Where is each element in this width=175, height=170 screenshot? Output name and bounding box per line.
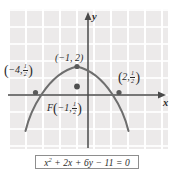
x-axis-label: x <box>163 98 168 109</box>
label-focus-x: −1, <box>57 102 71 113</box>
label-vertex-point: (−1, 2) <box>55 53 83 63</box>
equation-rest: + 2x + 6y − 11 = 0 <box>52 158 130 168</box>
label-right-close-paren: ) <box>135 70 139 85</box>
point-right <box>116 90 121 95</box>
label-left-x: −4, <box>8 64 22 75</box>
x-axis <box>8 92 166 99</box>
point-focus <box>74 84 80 90</box>
label-left-close-paren: ) <box>28 63 32 78</box>
y-axis-label: y <box>92 12 97 23</box>
label-right-point: (2,12) <box>118 70 140 85</box>
equation-text: x2 + 2x + 6y − 11 = 0 <box>44 156 130 168</box>
label-left-point: (−4,12) <box>4 63 32 78</box>
point-vertex <box>74 64 79 69</box>
point-left <box>33 90 38 95</box>
figure-container: (−4,12) (−1, 2) (2,12) F(−1,12) y x x2 +… <box>0 0 175 170</box>
plot-svg <box>0 0 175 170</box>
equation-box: x2 + 2x + 6y − 11 = 0 <box>35 155 139 169</box>
y-axis <box>85 12 92 148</box>
label-focus-close-paren: ) <box>77 101 81 116</box>
parabola-curve <box>26 67 129 132</box>
label-focus-point: F(−1,12) <box>47 101 82 116</box>
label-right-x: 2, <box>122 71 130 82</box>
